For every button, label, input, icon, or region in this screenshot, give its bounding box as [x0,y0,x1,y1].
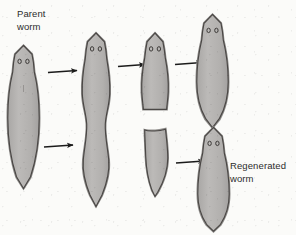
stage-3-anterior-fragment [140,32,169,111]
stage-3-posterior-fragment [144,128,170,199]
arrow-parent-to-elongated [48,71,77,73]
worm-body [198,128,229,232]
stage-2-elongated-worm [81,32,111,209]
worm-body [82,33,110,207]
diagram-canvas [0,0,296,235]
regenerated-worm-label: Regenerated worm [230,160,286,185]
stage-4-regenerated-worm-top [196,13,230,130]
parent-worm-label: Parent worm [17,8,46,33]
stage-1-parent-worm [7,44,41,191]
arrow-elongated-to-posterior-fragment [44,145,73,147]
stage-4-regenerated-worm-bottom [197,126,231,233]
arrow-elongated-to-anterior-fragment [118,65,145,67]
worm-body [145,129,168,196]
regeneration-diagram: Parent worm Regenerated worm [0,0,296,235]
